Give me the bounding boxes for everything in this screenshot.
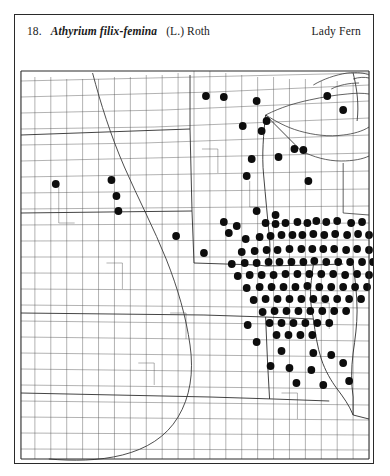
record-dot [323, 92, 331, 100]
record-dot [331, 230, 339, 238]
record-dot [271, 307, 279, 315]
record-dot [253, 338, 261, 346]
record-dot [308, 331, 316, 339]
record-dot [115, 207, 123, 215]
record-dot [278, 319, 286, 327]
record-dot [285, 331, 293, 339]
record-dot [309, 349, 317, 357]
record-dot [276, 258, 284, 266]
record-dot [342, 246, 350, 254]
record-dot [52, 180, 60, 188]
record-dot [263, 246, 271, 254]
record-dot [346, 258, 354, 266]
record-dot [303, 219, 311, 227]
record-dot [308, 245, 316, 253]
record-dot [275, 153, 283, 161]
distribution-plate: 18. Athyrium filix-femina (L.) Roth Lady… [14, 14, 374, 464]
state-boundaries-layer [21, 75, 369, 419]
record-dot [319, 381, 327, 389]
record-dot [172, 232, 180, 240]
record-dot [113, 192, 121, 200]
range-boundary-line [49, 73, 358, 460]
record-dot [329, 270, 337, 278]
record-dot [327, 283, 335, 291]
record-dot [234, 272, 242, 280]
record-dot [342, 307, 350, 315]
plate-header: 18. Athyrium filix-femina (L.) Roth Lady… [15, 15, 373, 63]
record-dot [286, 245, 294, 253]
record-dot [108, 176, 116, 184]
record-dot [345, 295, 353, 303]
record-dot [307, 366, 315, 374]
record-dot [291, 145, 299, 153]
record-dot [282, 270, 290, 278]
record-dot [306, 307, 314, 315]
record-dot [272, 211, 280, 219]
species-binomial: Athyrium filix-femina [51, 25, 158, 37]
record-dot [357, 295, 365, 303]
record-dot [283, 307, 291, 315]
record-dot [202, 92, 210, 100]
record-dot [339, 106, 347, 114]
record-dot [300, 146, 308, 154]
record-dot [312, 217, 320, 225]
record-dot [358, 258, 366, 266]
record-dot [225, 229, 233, 237]
record-dot [305, 270, 313, 278]
record-dot [315, 283, 323, 291]
record-dot [294, 218, 302, 226]
record-dot [239, 122, 247, 130]
record-dot [325, 319, 333, 327]
record-dot [322, 258, 330, 266]
record-dot [358, 218, 366, 226]
record-dot [242, 235, 250, 243]
record-dot [265, 258, 273, 266]
record-dot [246, 271, 254, 279]
species-title: 18. Athyrium filix-femina (L.) Roth [27, 24, 210, 38]
record-dot [347, 219, 355, 227]
record-dot [300, 258, 308, 266]
record-dot [321, 295, 329, 303]
record-dot [290, 319, 298, 327]
record-dot [280, 283, 288, 291]
record-dot [339, 283, 347, 291]
record-dot [258, 127, 266, 135]
record-dot [369, 258, 373, 266]
plate-number: 18. [27, 25, 42, 37]
record-dot [253, 97, 261, 105]
record-dot [298, 245, 306, 253]
record-dot [333, 295, 341, 303]
record-dot [298, 295, 306, 303]
record-dot [256, 283, 264, 291]
record-dot [228, 260, 236, 268]
record-dot [363, 283, 371, 291]
record-dot [293, 379, 301, 387]
record-dot [292, 283, 300, 291]
record-dot [319, 245, 327, 253]
record-dot [339, 359, 347, 367]
record-dot [310, 257, 318, 265]
record-dot [243, 172, 251, 180]
record-dot [354, 230, 362, 238]
record-dot [278, 231, 286, 239]
record-dot [238, 248, 246, 256]
record-dot [241, 259, 249, 267]
record-dot [256, 233, 264, 241]
record-dot [259, 308, 267, 316]
record-dot [330, 307, 338, 315]
record-dot [353, 245, 361, 253]
record-dot [318, 307, 326, 315]
record-dot [297, 331, 305, 339]
record-dot [248, 155, 256, 163]
record-dot [289, 231, 297, 239]
map-canvas [15, 63, 373, 465]
record-dot [303, 282, 311, 290]
record-dot [273, 331, 281, 339]
record-dot [267, 232, 275, 240]
record-dot [282, 219, 290, 227]
record-dot [220, 218, 228, 226]
record-dot [220, 93, 228, 101]
record-dot [200, 249, 208, 257]
record-dot [233, 222, 241, 230]
record-dot [299, 231, 307, 239]
